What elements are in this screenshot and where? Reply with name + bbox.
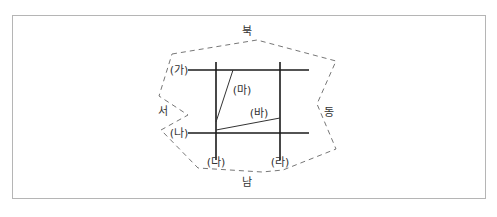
label-ma: (마): [233, 85, 252, 96]
label-na: (나): [170, 128, 189, 139]
label-ga: (가): [170, 65, 189, 76]
label-ra: (라): [271, 157, 290, 168]
line-ba: [216, 118, 280, 130]
dashed-boundary: [159, 40, 336, 172]
label-west: 서: [158, 106, 168, 117]
line-ma: [216, 70, 233, 122]
label-ba: (바): [250, 108, 269, 119]
label-south: 남: [242, 177, 252, 188]
label-east: 동: [324, 107, 334, 118]
label-da: (다): [207, 157, 226, 168]
label-north: 북: [242, 26, 252, 37]
